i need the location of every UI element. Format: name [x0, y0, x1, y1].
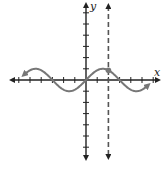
- y-axis-label: y: [89, 0, 97, 13]
- x-axis-label: x: [154, 66, 161, 79]
- highlight-point: [106, 67, 112, 73]
- graph: x y: [0, 0, 165, 172]
